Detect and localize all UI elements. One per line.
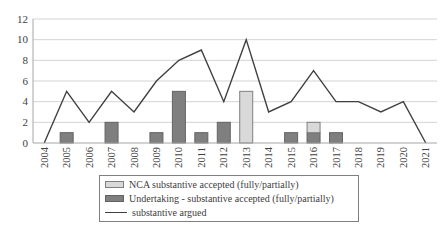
legend-label-argued: substantive argued — [132, 206, 207, 219]
legend-entry-undertaking: Undertaking - substantive accepted (full… — [105, 192, 353, 205]
y-tick-label-6: 6 — [23, 75, 29, 87]
bar-undertaking-2005 — [60, 133, 73, 143]
x-tick-label-2008: 2008 — [129, 147, 140, 168]
line-swatch-icon — [105, 212, 127, 213]
x-tick-label-2012: 2012 — [218, 147, 229, 168]
line-series-substantive-argued — [44, 40, 426, 143]
x-tick-label-2011: 2011 — [196, 147, 207, 168]
chart-legend: NCA substantive accepted (fully/partiall… — [99, 175, 359, 222]
y-tick-label-4: 4 — [23, 95, 29, 107]
x-tick-label-2013: 2013 — [241, 147, 252, 168]
x-tick-label-2015: 2015 — [286, 147, 297, 168]
bar-nca-2016 — [307, 122, 320, 132]
y-tick-label-8: 8 — [23, 54, 29, 66]
x-tick-label-2020: 2020 — [398, 147, 409, 168]
x-tick-label-2005: 2005 — [61, 147, 72, 168]
bar-undertaking-2016 — [307, 133, 320, 143]
bar-undertaking-2011 — [195, 133, 208, 143]
bar-undertaking-2012 — [217, 122, 230, 143]
x-tick-label-2006: 2006 — [84, 147, 95, 168]
bar-undertaking-2015 — [285, 133, 298, 143]
y-tick-label-2: 2 — [23, 116, 29, 128]
undertaking-bar-swatch-icon — [105, 195, 124, 202]
x-tick-label-2021: 2021 — [420, 147, 431, 168]
x-tick-label-2007: 2007 — [106, 147, 117, 168]
x-tick-label-2004: 2004 — [39, 146, 50, 168]
y-tick-label-0: 0 — [23, 137, 29, 149]
legend-label-nca: NCA substantive accepted (fully/partiall… — [129, 178, 299, 191]
x-tick-label-2017: 2017 — [331, 147, 342, 168]
bar-undertaking-2007 — [105, 122, 118, 143]
nca-bar-swatch-icon — [105, 181, 124, 188]
chart-figure: 0246810122004200520062007200820092010201… — [0, 0, 446, 243]
y-tick-label-10: 10 — [17, 33, 29, 45]
bar-nca-2013 — [240, 91, 253, 143]
x-tick-label-2018: 2018 — [353, 147, 364, 168]
bar-undertaking-2010 — [172, 91, 185, 143]
x-tick-label-2014: 2014 — [263, 146, 274, 168]
y-tick-label-12: 12 — [17, 13, 28, 25]
legend-label-undertaking: Undertaking - substantive accepted (full… — [129, 192, 334, 205]
bar-undertaking-2017 — [330, 133, 343, 143]
x-tick-label-2009: 2009 — [151, 147, 162, 168]
bar-undertaking-2009 — [150, 133, 163, 143]
legend-entry-nca: NCA substantive accepted (fully/partiall… — [105, 178, 353, 191]
x-tick-label-2010: 2010 — [173, 147, 184, 168]
x-tick-label-2019: 2019 — [375, 147, 386, 168]
x-tick-label-2016: 2016 — [308, 147, 319, 168]
legend-entry-argued: substantive argued — [105, 206, 353, 219]
